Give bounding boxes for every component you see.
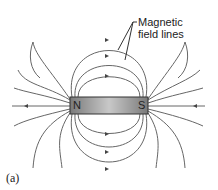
diagram: Magnetic field lines N S (a): [0, 0, 218, 190]
field-lines-caption: Magnetic field lines: [138, 16, 184, 40]
south-pole-label: S: [138, 99, 145, 111]
panel-label: (a): [6, 171, 19, 186]
bar-magnet: [70, 97, 148, 114]
north-pole-label: N: [73, 99, 81, 111]
caption-line-1: Magnetic: [138, 16, 184, 28]
caption-line-2: field lines: [138, 28, 184, 40]
field-lines-drawing: [0, 0, 218, 190]
